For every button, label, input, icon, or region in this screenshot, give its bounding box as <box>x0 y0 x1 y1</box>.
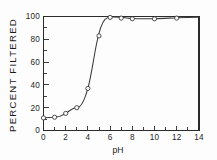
percent-filtered-vs-ph-chart: 0 20 40 60 80 100 0 2 <box>0 0 217 160</box>
x-tick-label-8: 8 <box>130 133 135 142</box>
y-tick-label-60: 60 <box>30 58 40 67</box>
y-axis-title: PERCENT FILTERED <box>7 18 18 132</box>
y-tick-label-20: 20 <box>30 104 40 113</box>
x-tick-label-10: 10 <box>150 133 160 142</box>
data-point-ph-3 <box>75 106 79 110</box>
x-axis-title: pH <box>113 145 124 155</box>
y-tick-label-80: 80 <box>30 35 40 44</box>
y-tick-label-100: 100 <box>26 12 41 21</box>
data-point-ph-1 <box>53 115 57 119</box>
data-point-ph-12 <box>175 16 179 20</box>
data-point-ph-0 <box>41 116 45 120</box>
x-tick-label-4: 4 <box>86 133 91 142</box>
x-tick-label-14: 14 <box>194 133 204 142</box>
x-tick-label-12: 12 <box>172 133 182 142</box>
data-point-ph-8 <box>130 17 134 21</box>
x-tick-label-2: 2 <box>63 133 68 142</box>
chart-figure: 0 20 40 60 80 100 0 2 <box>0 0 217 160</box>
data-point-ph-6 <box>108 15 112 19</box>
x-tick-label-6: 6 <box>108 133 113 142</box>
y-tick-label-0: 0 <box>35 126 40 135</box>
data-point-ph-10 <box>152 17 156 21</box>
data-point-ph-2 <box>64 111 68 115</box>
x-tick-label-0: 0 <box>41 133 46 142</box>
y-tick-label-40: 40 <box>30 81 40 90</box>
data-point-ph-5 <box>97 34 101 38</box>
data-point-ph-4 <box>86 86 90 90</box>
data-point-ph-7 <box>119 16 123 20</box>
